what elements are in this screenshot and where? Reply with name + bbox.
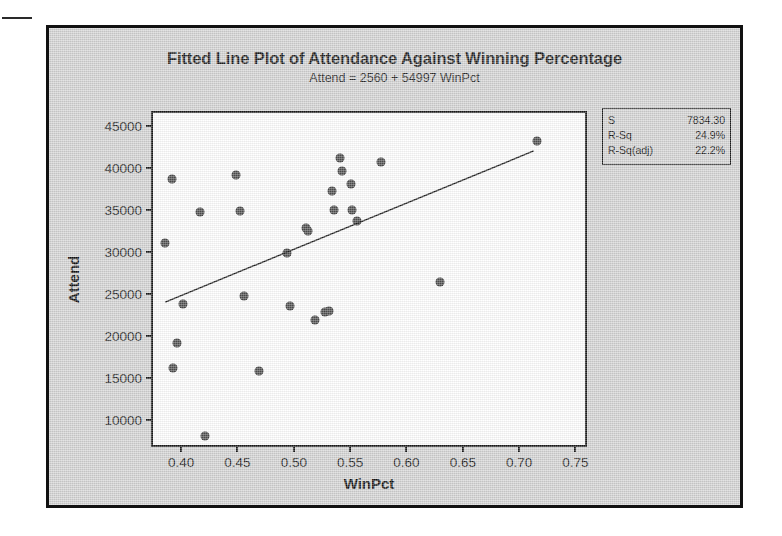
regression-line bbox=[153, 113, 585, 446]
fitted-regression-line bbox=[165, 151, 533, 302]
x-axis-tick-mark bbox=[236, 445, 238, 452]
y-axis-tick-label: 45000 bbox=[104, 118, 142, 133]
y-axis-tick-label: 15000 bbox=[104, 370, 142, 385]
statistic-row: R-Sq24.9% bbox=[608, 128, 725, 143]
statistic-label: R-Sq(adj) bbox=[608, 143, 653, 158]
y-axis-tick-label: 30000 bbox=[104, 244, 142, 259]
plot-area: 4500040000350003000025000200001500010000… bbox=[151, 111, 587, 447]
statistic-value: 22.2% bbox=[695, 143, 725, 158]
y-axis-tick-mark bbox=[146, 377, 153, 379]
statistic-label: R-Sq bbox=[608, 128, 632, 143]
x-axis-tick-mark bbox=[180, 445, 182, 452]
y-axis-tick-mark bbox=[146, 293, 153, 295]
x-axis-tick-label: 0.70 bbox=[506, 455, 532, 470]
y-axis-tick-label: 35000 bbox=[104, 202, 142, 217]
x-axis-tick-label: 0.55 bbox=[337, 455, 363, 470]
x-axis-tick-label: 0.65 bbox=[450, 455, 476, 470]
statistic-label: S bbox=[608, 113, 615, 128]
y-axis-tick-label: 40000 bbox=[104, 160, 142, 175]
statistics-box: S7834.30R-Sq24.9%R-Sq(adj)22.2% bbox=[602, 108, 731, 165]
y-axis-tick-mark bbox=[146, 419, 153, 421]
y-axis-label: Attend bbox=[63, 111, 85, 447]
x-axis-tick-mark bbox=[405, 445, 407, 452]
x-axis-tick-label: 0.40 bbox=[168, 455, 194, 470]
x-axis-tick-mark bbox=[293, 445, 295, 452]
x-axis-tick-mark bbox=[518, 445, 520, 452]
y-axis-tick-label: 25000 bbox=[104, 286, 142, 301]
y-axis-tick-mark bbox=[146, 335, 153, 337]
x-axis-tick-mark bbox=[574, 445, 576, 452]
x-axis-tick-label: 0.45 bbox=[224, 455, 250, 470]
scan-artifact-dash bbox=[2, 17, 32, 19]
chart-title: Fitted Line Plot of Attendance Against W… bbox=[49, 49, 740, 68]
y-axis-tick-mark bbox=[146, 125, 153, 127]
fitted-line-plot-window: Fitted Line Plot of Attendance Against W… bbox=[46, 25, 743, 508]
x-axis-label: WinPct bbox=[151, 475, 587, 492]
x-axis-tick-label: 0.50 bbox=[281, 455, 307, 470]
statistic-value: 7834.30 bbox=[687, 113, 725, 128]
statistic-row: S7834.30 bbox=[608, 113, 725, 128]
y-axis-tick-mark bbox=[146, 251, 153, 253]
y-axis-tick-mark bbox=[146, 209, 153, 211]
y-axis-tick-label: 10000 bbox=[104, 412, 142, 427]
statistic-value: 24.9% bbox=[695, 128, 725, 143]
y-axis-tick-mark bbox=[146, 167, 153, 169]
x-axis-tick-mark bbox=[462, 445, 464, 452]
chart-subtitle-equation: Attend = 2560 + 54997 WinPct bbox=[49, 71, 740, 85]
x-axis-tick-mark bbox=[349, 445, 351, 452]
y-axis-label-text: Attend bbox=[66, 255, 83, 303]
statistic-row: R-Sq(adj)22.2% bbox=[608, 143, 725, 158]
x-axis-tick-label: 0.75 bbox=[562, 455, 588, 470]
x-axis-tick-label: 0.60 bbox=[393, 455, 419, 470]
y-axis-tick-label: 20000 bbox=[104, 328, 142, 343]
